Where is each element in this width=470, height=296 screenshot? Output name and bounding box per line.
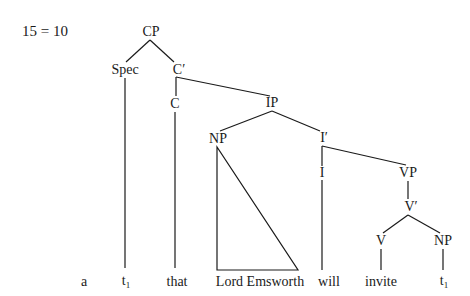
- terminal-invite: invite: [365, 274, 397, 290]
- node-i-bar: I′: [320, 130, 328, 146]
- terminal-lord-emsworth: Lord Emsworth: [216, 274, 304, 290]
- node-i: I: [320, 165, 325, 181]
- terminal-trace-1: t1: [122, 273, 130, 293]
- terminal-will: will: [318, 274, 340, 290]
- node-spec: Spec: [111, 62, 138, 78]
- node-np-subject: NP: [209, 131, 227, 147]
- node-cp: CP: [142, 24, 159, 40]
- node-np-object: NP: [434, 233, 452, 249]
- node-c: C: [170, 96, 179, 112]
- terminal-that: that: [167, 274, 188, 290]
- syntax-tree-diagram: 15 = 10 CP Spec C′ C IP NP I′ I VP V′ V …: [0, 0, 470, 296]
- node-v: V: [376, 233, 386, 249]
- node-ip: IP: [266, 95, 278, 111]
- terminal-trace-2: t1: [440, 273, 448, 293]
- tree-branches: [0, 0, 470, 296]
- node-vp: VP: [399, 165, 417, 181]
- example-letter: a: [81, 274, 87, 290]
- example-number: 15 = 10: [22, 23, 68, 40]
- node-c-bar: C′: [173, 62, 185, 78]
- node-v-bar: V′: [404, 199, 417, 215]
